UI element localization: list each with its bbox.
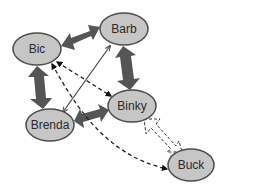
thick-double-arrow [28,66,52,109]
edge-binky-buck [144,119,182,152]
node-buck[interactable]: Buck [168,149,214,181]
edge-bic-barb [61,25,100,50]
node-label: Brenda [31,118,70,132]
thick-double-arrow [115,46,140,90]
relationship-diagram: Bic Barb Binky Brenda Buck [0,0,259,191]
node-barb[interactable]: Barb [100,13,148,45]
edge-brenda-barb [63,46,110,112]
edge-barb-binky [115,46,140,90]
edge-bic-brenda [28,66,52,109]
node-brenda[interactable]: Brenda [26,109,74,141]
node-binky[interactable]: Binky [108,90,156,122]
node-label: Buck [178,158,206,172]
node-bic[interactable]: Bic [13,33,61,65]
node-label: Bic [29,42,46,56]
edge-bic-binky [57,62,111,96]
node-label: Barb [111,22,137,36]
hollow-dashed-double-arrow [144,119,182,152]
node-label: Binky [117,99,146,113]
thick-double-arrow [61,25,100,50]
